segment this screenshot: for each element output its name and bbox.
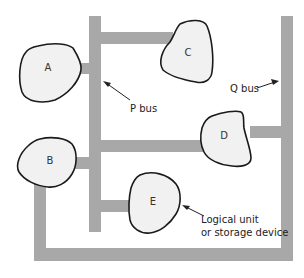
arrow-icon — [271, 79, 279, 85]
q-bus-branch-d — [250, 126, 281, 138]
q-bus-label: Q bus — [230, 83, 259, 94]
unit-callout: Logical unit or storage device — [182, 205, 288, 238]
unit-a: A — [20, 44, 81, 102]
unit-callout-line1: Logical unit — [201, 214, 259, 225]
arrow-icon — [182, 205, 190, 210]
unit-e: E — [129, 173, 180, 233]
p-bus-branch-e — [101, 200, 131, 212]
bus-diagram: A B C D E P bus Q bus Logical unit or st… — [0, 0, 304, 278]
unit-b-label: B — [47, 155, 54, 166]
unit-callout-line2: or storage device — [201, 227, 288, 238]
q-bus-bottom — [34, 248, 293, 261]
unit-b: B — [18, 138, 77, 188]
p-bus-branch-d — [101, 140, 204, 152]
unit-d: D — [201, 111, 251, 166]
p-bus-callout: P bus — [103, 81, 157, 114]
q-bus-trunk — [281, 16, 293, 261]
unit-d-label: D — [220, 130, 228, 141]
q-bus-callout: Q bus — [230, 79, 279, 94]
unit-e-label: E — [150, 196, 156, 207]
unit-c: C — [161, 20, 213, 82]
q-bus-branch-b — [34, 182, 46, 260]
unit-c-label: C — [185, 47, 192, 58]
p-bus-trunk — [89, 16, 101, 232]
p-bus-label: P bus — [130, 103, 157, 114]
p-bus-branch-c — [101, 32, 173, 44]
unit-a-label: A — [45, 62, 52, 73]
